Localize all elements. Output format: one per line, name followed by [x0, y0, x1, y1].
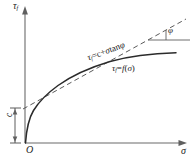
x-axis [25, 140, 187, 146]
cohesion-label: c [5, 113, 15, 117]
y-axis [22, 6, 28, 143]
curve-eq-close-paren: ) [132, 63, 135, 73]
y-axis-label-subscript: f [17, 4, 19, 11]
cohesion-down-arrowhead [13, 137, 18, 143]
origin-label: O [26, 145, 33, 155]
friction-angle-label: φ [168, 26, 173, 35]
figure-canvas [0, 0, 194, 161]
x-axis-label: σ [181, 146, 186, 156]
y-axis-label: τf [13, 1, 18, 12]
y-axis-arrowhead [22, 6, 28, 15]
curve-equation-label: τf=f(σ) [112, 64, 135, 74]
shear-strength-figure: τf σ O c φ τf=c+σtanφ τf=f(σ) [0, 0, 194, 161]
